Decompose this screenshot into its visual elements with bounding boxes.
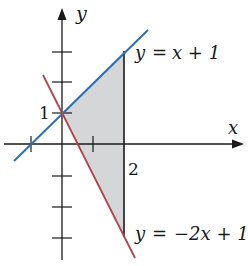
x-axis-label: x <box>228 117 238 138</box>
y-axis-label: y <box>75 2 87 24</box>
svg-text:y: y <box>134 223 146 244</box>
svg-text:=: = <box>152 223 167 244</box>
y-axis-arrow-icon <box>58 8 67 20</box>
svg-text:−2x + 1: −2x + 1 <box>174 223 248 244</box>
x-bound-label: 2 <box>128 159 139 179</box>
y-intercept-label: 1 <box>39 103 50 123</box>
line2-equation-label: y = −2x + 1 <box>134 223 248 244</box>
svg-text:x + 1: x + 1 <box>172 42 220 63</box>
line1-equation-label: y = x + 1 <box>134 42 220 63</box>
region-between-lines-diagram: y x 1 2 y = x + 1 y = −2x + 1 <box>0 0 248 266</box>
svg-text:y: y <box>134 42 146 63</box>
x-axis-arrow-icon <box>232 140 244 149</box>
svg-text:=: = <box>152 42 167 63</box>
